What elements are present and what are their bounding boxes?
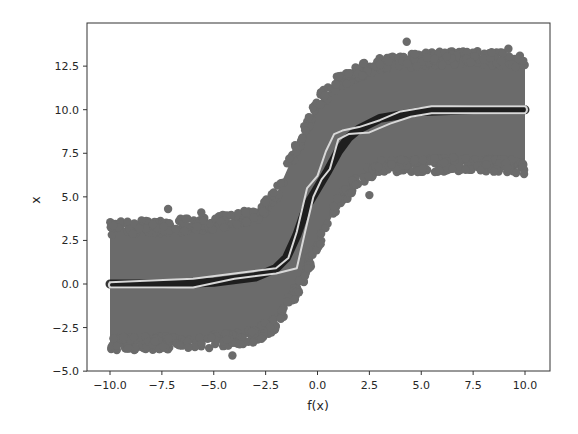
outlier-point [228,351,236,359]
x-tick-label: −5.0 [200,379,227,392]
x-tick-label: −7.5 [149,379,176,392]
x-tick-label: 2.5 [361,379,379,392]
y-tick-label: 12.5 [55,60,80,73]
y-tick-label: 5.0 [62,191,80,204]
x-tick-label: 10.0 [513,379,538,392]
x-tick-label: −10.0 [93,379,127,392]
chart-canvas: −10.0−7.5−5.0−2.50.02.55.07.510.0 −5.0−2… [0,0,578,434]
outlier-point [504,44,512,52]
x-tick-label: 5.0 [413,379,431,392]
outlier-point [365,191,373,199]
x-tick-label: 0.0 [309,379,327,392]
outlier-point [197,208,205,216]
y-tick-label: −2.5 [52,322,79,335]
x-axis-label: f(x) [307,398,329,413]
x-tick-label: −2.5 [252,379,279,392]
outlier-point [164,205,172,213]
y-axis-label: x [28,196,43,203]
y-tick-label: −5.0 [52,365,79,378]
x-tick-label: 7.5 [464,379,482,392]
y-tick-label: 7.5 [62,147,80,160]
y-tick-label: 10.0 [55,104,80,117]
y-tick-label: 0.0 [62,278,80,291]
outlier-point [411,50,419,58]
y-tick-label: 2.5 [62,234,80,247]
outlier-point [403,38,411,46]
